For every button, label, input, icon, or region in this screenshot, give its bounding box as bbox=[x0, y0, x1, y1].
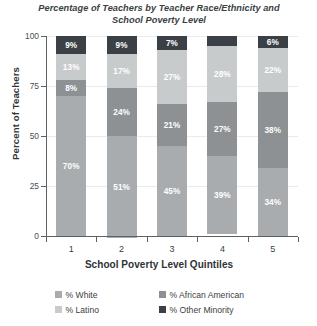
x-axis-title: School Poverty Level Quintiles bbox=[30, 259, 288, 270]
bar-segment-label: 70% bbox=[63, 162, 80, 171]
legend-item[interactable]: % White bbox=[55, 288, 159, 301]
y-axis-line bbox=[46, 36, 47, 237]
bar-segment[interactable]: 21% bbox=[157, 104, 187, 146]
bar-column[interactable]: 7%27%21%45% bbox=[157, 36, 187, 236]
x-axis-tick-mark bbox=[96, 237, 97, 242]
legend-item[interactable]: % African American bbox=[159, 288, 263, 301]
bar-column[interactable]: 6%22%38%34% bbox=[258, 36, 288, 236]
bar-segment-label: 22% bbox=[264, 66, 281, 75]
bar-segment-label: 34% bbox=[264, 198, 281, 207]
y-axis-tick-label: 25 bbox=[13, 182, 39, 191]
bar-segment-label: 45% bbox=[164, 187, 181, 196]
chart-legend: % White% African American% Latino% Other… bbox=[0, 288, 317, 322]
x-axis-tick-label: 1 bbox=[51, 244, 91, 254]
bar-segment-label: 9% bbox=[116, 41, 128, 50]
bar-segment-label: 51% bbox=[113, 183, 130, 192]
bar-segment[interactable]: 24% bbox=[107, 88, 137, 136]
bar-segment-label: 21% bbox=[164, 121, 181, 130]
bar-segment[interactable]: 51% bbox=[107, 136, 137, 238]
bar-segment[interactable]: 17% bbox=[107, 54, 137, 88]
legend-item[interactable]: % Other Minority bbox=[159, 303, 263, 316]
bar-segment[interactable]: 7% bbox=[157, 36, 187, 50]
y-axis-tick-mark bbox=[41, 236, 46, 237]
bar-column[interactable]: 9%17%24%51% bbox=[107, 36, 137, 236]
y-axis-tick-labels: 0255075100 bbox=[9, 0, 39, 326]
y-axis-tick-mark bbox=[41, 36, 46, 37]
bar-segment-label: 27% bbox=[164, 73, 181, 82]
chart-title-line-1: Percentage of Teachers by Teacher Race/E… bbox=[22, 2, 296, 14]
bar-segment[interactable]: 38% bbox=[258, 92, 288, 168]
legend-label: % Latino bbox=[66, 305, 99, 315]
x-axis-tick-mark bbox=[248, 237, 249, 242]
plot-area: 9%13%8%70%9%17%24%51%7%27%21%45%5%28%27%… bbox=[46, 36, 298, 236]
bar-segment-label: 7% bbox=[166, 39, 178, 48]
x-axis-tick-mark bbox=[197, 237, 198, 242]
legend-swatch-icon bbox=[159, 306, 166, 313]
y-axis-tick-mark bbox=[41, 136, 46, 137]
bar-segment[interactable]: 22% bbox=[258, 48, 288, 92]
x-axis-tick-mark bbox=[147, 237, 148, 242]
x-axis-tick-mark bbox=[46, 237, 47, 242]
y-axis-tick-label: 100 bbox=[13, 32, 39, 41]
x-axis-tick-mark bbox=[298, 237, 299, 242]
bar-segment[interactable]: 70% bbox=[56, 96, 86, 236]
y-axis-tick-label: 0 bbox=[13, 232, 39, 241]
y-axis-tick-mark bbox=[41, 186, 46, 187]
chart-figure: Percentage of Teachers by Teacher Race/E… bbox=[0, 0, 317, 326]
y-axis-tick-label: 50 bbox=[13, 132, 39, 141]
bar-segment[interactable]: 45% bbox=[157, 146, 187, 236]
legend-swatch-icon bbox=[159, 291, 166, 298]
legend-label: % Other Minority bbox=[170, 305, 234, 315]
bar-segment-label: 9% bbox=[65, 41, 77, 50]
bar-segment[interactable]: 5% bbox=[207, 36, 237, 46]
x-axis-tick-label: 5 bbox=[253, 244, 293, 254]
x-axis-tick-label: 2 bbox=[102, 244, 142, 254]
y-axis-tick-label: 75 bbox=[13, 82, 39, 91]
bar-segment-label: 8% bbox=[65, 84, 77, 93]
bar-segment[interactable]: 27% bbox=[157, 50, 187, 104]
chart-title: Percentage of Teachers by Teacher Race/E… bbox=[22, 2, 296, 26]
bar-segment-label: 38% bbox=[264, 126, 281, 135]
legend-item[interactable]: % Latino bbox=[55, 303, 159, 316]
bar-segment[interactable]: 9% bbox=[107, 36, 137, 54]
bar-segment-label: 39% bbox=[214, 191, 231, 200]
bar-segment-label: 6% bbox=[267, 38, 279, 47]
bar-segment[interactable]: 39% bbox=[207, 156, 237, 234]
x-axis-line bbox=[46, 236, 298, 237]
bar-segment[interactable]: 13% bbox=[56, 54, 86, 80]
bar-segment[interactable]: 34% bbox=[258, 168, 288, 236]
bar-segment[interactable]: 28% bbox=[207, 46, 237, 102]
x-axis-tick-label: 4 bbox=[202, 244, 242, 254]
x-axis-tick-label: 3 bbox=[152, 244, 192, 254]
bar-segment-label: 13% bbox=[63, 63, 80, 72]
y-axis-tick-mark bbox=[41, 86, 46, 87]
bar-segment[interactable]: 6% bbox=[258, 36, 288, 48]
legend-swatch-icon bbox=[55, 306, 62, 313]
bar-segment-label: 24% bbox=[113, 108, 130, 117]
bar-segment-label: 17% bbox=[113, 67, 130, 76]
bar-column[interactable]: 5%28%27%39% bbox=[207, 36, 237, 236]
bar-segment[interactable]: 27% bbox=[207, 102, 237, 156]
legend-swatch-icon bbox=[55, 291, 62, 298]
bar-segment[interactable]: 9% bbox=[56, 36, 86, 54]
bar-segment-label: 27% bbox=[214, 125, 231, 134]
legend-label: % White bbox=[66, 290, 98, 300]
chart-title-line-2: School Poverty Level bbox=[22, 14, 296, 26]
bar-segment-label: 28% bbox=[214, 70, 231, 79]
bar-segment[interactable]: 8% bbox=[56, 80, 86, 96]
legend-label: % African American bbox=[170, 290, 245, 300]
bar-column[interactable]: 9%13%8%70% bbox=[56, 36, 86, 236]
legend-row: % Latino% Other Minority bbox=[0, 303, 317, 316]
legend-row: % White% African American bbox=[0, 288, 317, 301]
